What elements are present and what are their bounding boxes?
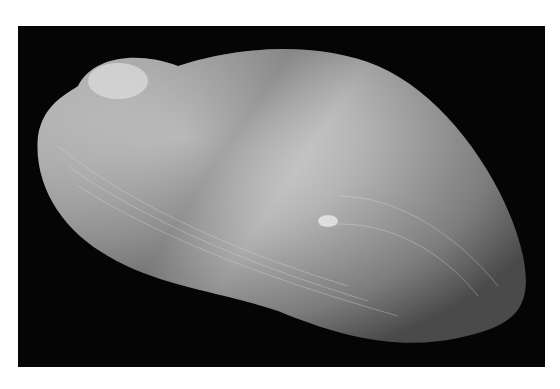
shell-illustration bbox=[18, 26, 545, 367]
shell-photo bbox=[18, 26, 545, 367]
